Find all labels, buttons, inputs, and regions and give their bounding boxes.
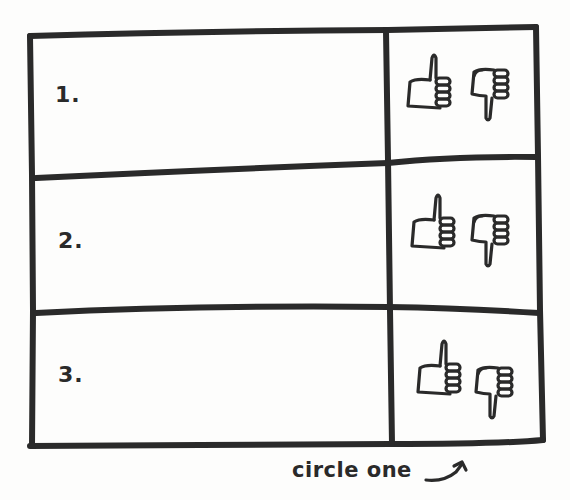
feedback-worksheet: 1. 2. 3. xyxy=(0,0,570,500)
thumbs-up-icon[interactable] xyxy=(406,190,462,254)
row-2-number: 2. xyxy=(58,228,84,253)
thumbs-up-icon[interactable] xyxy=(402,50,458,114)
thumbs-up-icon[interactable] xyxy=(412,336,468,400)
thumbs-down-icon[interactable] xyxy=(470,364,522,424)
curved-arrow-up-right-icon xyxy=(422,458,472,488)
thumbs-down-icon[interactable] xyxy=(466,66,518,126)
thumbs-down-icon[interactable] xyxy=(466,212,518,272)
row-3-number: 3. xyxy=(58,362,84,387)
row-1-number: 1. xyxy=(55,82,81,107)
circle-one-instruction: circle one xyxy=(292,458,412,482)
